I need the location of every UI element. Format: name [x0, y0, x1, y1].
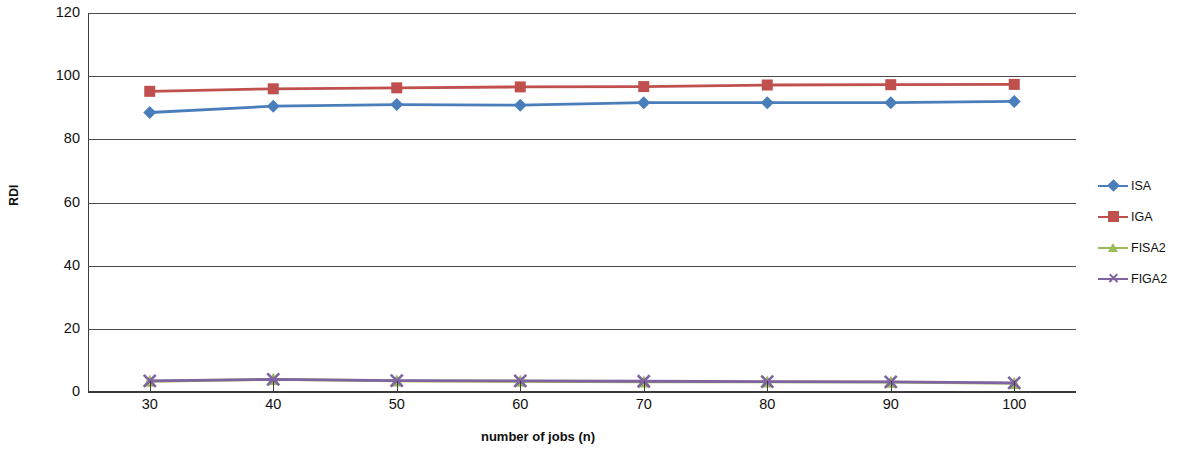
- y-axis-tick-label: 100: [36, 68, 80, 83]
- x-axis-tick-mark: [273, 381, 274, 392]
- x-axis-tick-label: 70: [614, 396, 674, 412]
- line-chart: RDI 020406080100120 30405060708090100 nu…: [0, 0, 1178, 451]
- legend-label: ISA: [1128, 179, 1151, 193]
- y-axis-tick-label: 40: [36, 258, 80, 273]
- legend-marker: [1108, 211, 1119, 222]
- x-axis-tick-label: 80: [737, 396, 797, 412]
- y-axis-tick-label: 60: [36, 195, 80, 210]
- y-axis-tick-label: 20: [36, 321, 80, 336]
- x-axis-tick-mark: [520, 381, 521, 392]
- data-point-marker: [143, 106, 156, 119]
- data-point-marker: [1009, 79, 1020, 90]
- data-point-marker: [268, 83, 279, 94]
- legend-marker: [1108, 243, 1118, 252]
- legend-marker: [1107, 179, 1120, 192]
- x-axis-tick-mark: [1014, 381, 1015, 392]
- legend-marker-square-icon: [1098, 210, 1128, 224]
- y-axis-tick-label: 80: [36, 131, 80, 146]
- x-axis-tick-mark: [397, 381, 398, 392]
- legend-item-figa2[interactable]: FIGA2: [1098, 263, 1178, 294]
- data-point-marker: [638, 81, 649, 92]
- data-point-marker: [884, 96, 897, 109]
- legend-label: FIGA2: [1128, 272, 1167, 286]
- legend-marker: [1108, 273, 1119, 284]
- series-iga: [144, 79, 1020, 97]
- data-point-marker: [1008, 95, 1021, 108]
- x-axis-tick-label: 50: [367, 396, 427, 412]
- x-axis-tick-mark: [150, 381, 151, 392]
- x-axis-tick-mark: [767, 381, 768, 392]
- data-point-marker: [515, 81, 526, 92]
- data-point-marker: [390, 98, 403, 111]
- legend-marker-triangle-icon: [1098, 241, 1128, 255]
- x-axis-tick-mark: [891, 381, 892, 392]
- data-point-marker: [761, 96, 774, 109]
- series-line: [150, 84, 1015, 91]
- x-axis-tick-label: 100: [984, 396, 1044, 412]
- data-point-marker: [885, 79, 896, 90]
- legend-label: IGA: [1128, 210, 1153, 224]
- legend-item-fisa2[interactable]: FISA2: [1098, 232, 1178, 263]
- y-axis-title: RDI: [7, 183, 21, 207]
- data-point-marker: [762, 80, 773, 91]
- data-point-marker: [514, 99, 527, 112]
- legend-label: FISA2: [1128, 241, 1166, 255]
- y-axis-tick-label: 120: [36, 5, 80, 20]
- y-axis-tick-label: 0: [36, 384, 80, 399]
- x-axis-title: number of jobs (n): [0, 429, 1076, 444]
- data-point-marker: [267, 100, 280, 113]
- series-line: [150, 379, 1015, 382]
- x-axis-tick-label: 40: [243, 396, 303, 412]
- x-axis-tick-label: 90: [861, 396, 921, 412]
- data-point-marker: [637, 96, 650, 109]
- plot-area: [88, 13, 1076, 392]
- legend-marker-diamond-icon: [1098, 179, 1128, 193]
- series-line: [150, 101, 1015, 112]
- data-point-marker: [144, 86, 155, 97]
- series-isa: [143, 95, 1021, 119]
- x-axis-tick-label: 30: [120, 396, 180, 412]
- series-layer: [88, 13, 1076, 392]
- x-axis-tick-label: 60: [490, 396, 550, 412]
- y-axis-tick-labels: 020406080100120: [26, 0, 80, 451]
- legend-item-iga[interactable]: IGA: [1098, 201, 1178, 232]
- legend-item-isa[interactable]: ISA: [1098, 170, 1178, 201]
- chart-legend: ISAIGAFISA2FIGA2: [1098, 170, 1178, 294]
- x-axis-tick-mark: [644, 381, 645, 392]
- data-point-marker: [391, 82, 402, 93]
- legend-marker-x-icon: [1098, 272, 1128, 286]
